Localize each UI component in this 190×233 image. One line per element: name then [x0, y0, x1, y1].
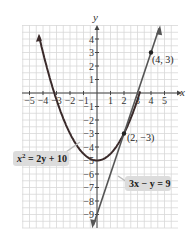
y-axis-label: y	[92, 11, 98, 23]
svg-text:4: 4	[89, 34, 94, 45]
point-label-2-neg3: (2, −3)	[127, 132, 154, 144]
svg-text:−5: −5	[24, 95, 35, 106]
x-axis-label: x	[179, 86, 185, 98]
graph: −5−4−3−2−1123454321−1−2−3−4−5−6−7−8−9 x …	[0, 0, 190, 233]
svg-text:−6: −6	[83, 169, 94, 180]
svg-text:−2: −2	[83, 115, 94, 126]
svg-text:−3: −3	[83, 128, 94, 139]
svg-text:5: 5	[162, 95, 167, 106]
svg-text:−2: −2	[65, 95, 76, 106]
svg-text:−1: −1	[83, 101, 94, 112]
svg-text:2: 2	[122, 95, 127, 106]
svg-text:−8: −8	[83, 196, 94, 207]
svg-text:1: 1	[108, 95, 113, 106]
svg-text:−7: −7	[83, 182, 94, 193]
point-label-4-3: (4, 3)	[152, 54, 174, 66]
equation-line: 3x − y = 9	[129, 178, 170, 189]
svg-text:2: 2	[89, 61, 94, 72]
svg-text:3: 3	[89, 47, 94, 58]
svg-text:1: 1	[89, 74, 94, 85]
svg-text:−4: −4	[83, 142, 94, 153]
svg-text:−4: −4	[38, 95, 49, 106]
svg-text:−9: −9	[83, 209, 94, 220]
svg-text:4: 4	[149, 95, 154, 106]
